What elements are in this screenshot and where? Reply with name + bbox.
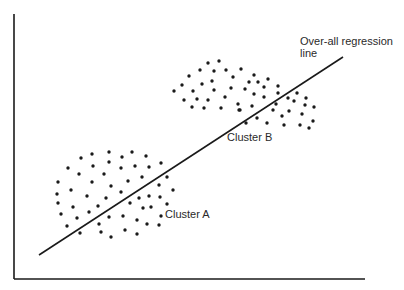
data-point [69,188,72,191]
data-point [159,161,162,164]
data-point [66,166,69,169]
data-point [282,123,285,126]
data-point [141,206,144,209]
data-point [121,214,124,217]
data-point [157,223,160,226]
data-point [195,97,198,100]
data-point [198,68,201,71]
data-point [159,214,162,217]
data-point [171,188,174,191]
data-point [224,68,227,71]
data-point [262,85,265,88]
data-point [135,218,138,221]
cluster-b-points [172,59,315,129]
data-point [120,155,123,158]
data-point [223,95,226,98]
data-point [157,183,160,186]
data-point [243,87,246,90]
data-point [126,179,129,182]
data-point [247,80,250,83]
data-point [298,123,301,126]
data-point [97,222,100,225]
data-point [99,230,102,233]
data-point [266,77,269,80]
data-point [265,121,268,124]
data-point [182,98,185,101]
data-point [206,98,209,101]
data-point [128,201,131,204]
data-point [165,202,168,205]
regression-line [39,57,343,255]
data-point [140,175,143,178]
data-point [271,108,274,111]
data-point [187,74,190,77]
data-point [107,215,110,218]
data-point [276,91,279,94]
scatter-diagram: Over-all regression line Cluster B Clust… [0,0,404,290]
data-point [180,83,183,86]
data-point [107,160,110,163]
data-point [104,196,107,199]
data-point [102,172,105,175]
data-point [287,109,290,112]
cluster-a-points [55,150,174,238]
data-point [90,180,93,183]
data-point [300,112,303,115]
data-point [78,231,81,234]
data-point [145,222,148,225]
data-point [252,73,255,76]
data-point [75,216,78,219]
data-point [256,80,259,83]
data-point [135,232,138,235]
data-point [119,166,122,169]
data-point [137,196,140,199]
regression-label-line1: Over-all regression [300,36,393,47]
data-point [147,194,150,197]
data-point [244,121,247,124]
data-point [206,61,209,64]
data-point [307,126,310,129]
data-point [59,212,62,215]
data-point [109,235,112,238]
data-point [77,172,80,175]
data-point [252,92,255,95]
data-point [255,116,258,119]
data-point [212,69,215,72]
data-point [236,102,239,105]
data-point [133,164,136,167]
data-point [109,184,112,187]
data-point [274,102,277,105]
data-point [130,150,133,153]
data-point [292,99,295,102]
data-point [303,103,306,106]
data-point [158,195,161,198]
data-point [56,180,59,183]
data-point [276,84,279,87]
data-point [286,96,289,99]
data-point [295,91,298,94]
data-point [85,194,88,197]
data-point [91,164,94,167]
data-point [90,152,93,155]
data-point [280,114,283,117]
data-point [262,95,265,98]
data-point [87,210,90,213]
data-point [304,96,307,99]
data-point [55,192,58,195]
data-point [107,150,110,153]
data-point [149,205,152,208]
data-point [219,106,222,109]
data-point [147,165,150,168]
data-point [172,89,175,92]
data-point [210,79,213,82]
data-point [229,86,232,89]
data-point [71,205,74,208]
data-point [239,67,242,70]
data-point [96,204,99,207]
data-point [123,228,126,231]
cluster-a-label: Cluster A [165,209,210,220]
data-point [202,106,205,109]
data-point [65,224,68,227]
data-point [165,175,168,178]
data-point [144,154,147,157]
